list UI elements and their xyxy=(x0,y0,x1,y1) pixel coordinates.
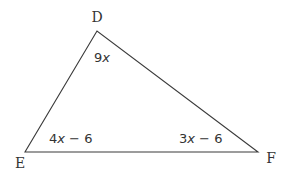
angle-f-rest: − 6 xyxy=(195,131,222,146)
angle-d-coef: 9 xyxy=(94,50,102,65)
angle-f-coef: 3 xyxy=(179,131,187,146)
angle-e-var: x xyxy=(56,131,65,146)
vertex-label-d: D xyxy=(91,9,102,25)
angle-d-var: x xyxy=(101,50,110,65)
angle-label-e: 4x − 6 xyxy=(49,131,92,146)
vertex-label-f: F xyxy=(266,150,276,166)
angle-e-coef: 4 xyxy=(49,131,57,146)
angle-label-d: 9x xyxy=(94,50,110,65)
triangle-diagram: D E F 9x 4x − 6 3x − 6 xyxy=(0,0,286,181)
angle-e-rest: − 6 xyxy=(65,131,92,146)
angle-label-f: 3x − 6 xyxy=(179,131,222,146)
vertex-label-e: E xyxy=(15,155,25,171)
angle-f-var: x xyxy=(186,131,195,146)
